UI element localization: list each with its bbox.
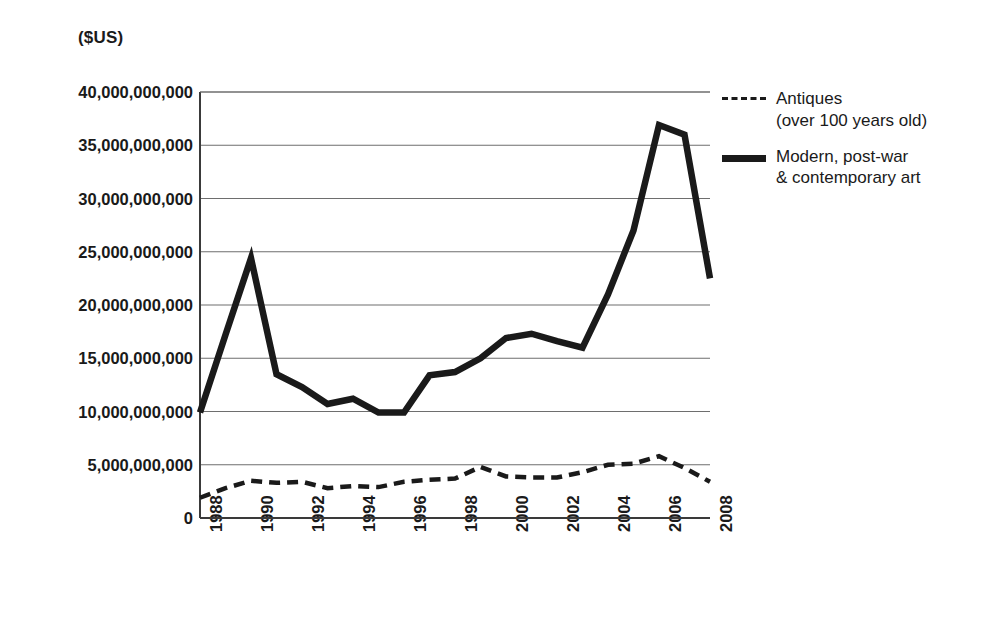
data-series-layer <box>200 125 710 498</box>
dashed-line-icon <box>722 97 766 100</box>
solid-line-icon <box>722 155 766 162</box>
chart-container: ($US) 05,000,000,00010,000,000,00015,000… <box>0 0 998 627</box>
legend-antiques: Antiques (over 100 years old) <box>722 88 992 132</box>
series-line-modern <box>200 125 710 413</box>
series-line-antiques <box>200 456 710 498</box>
chart-legend: Antiques (over 100 years old)Modern, pos… <box>722 88 992 203</box>
legend-modern: Modern, post-war & contemporary art <box>722 146 992 190</box>
legend-label: Modern, post-war & contemporary art <box>776 146 921 190</box>
gridlines <box>200 92 710 465</box>
legend-label: Antiques (over 100 years old) <box>776 88 927 132</box>
